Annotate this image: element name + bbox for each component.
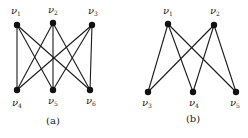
vertex-label-v5: ν5 — [48, 95, 58, 107]
vertex-label-v1: ν1 — [11, 5, 21, 17]
edge-v3-v5 — [53, 25, 92, 90]
vertex-v1 — [14, 22, 20, 28]
vertex-v1 — [165, 21, 171, 27]
vertex-v3 — [145, 89, 151, 95]
caption-a: (a) — [46, 115, 60, 126]
vertex-label-v3: ν3 — [142, 97, 152, 109]
vertex-label-v1: ν1 — [163, 5, 173, 17]
vertex-label-v2: ν2 — [210, 5, 220, 17]
edge-v1-v4 — [168, 24, 193, 92]
vertex-subscript: 2 — [54, 9, 58, 16]
vertex-v5 — [50, 87, 56, 93]
vertex-subscript: 6 — [92, 100, 96, 107]
edge-v3-v6 — [90, 25, 92, 90]
edge-v1-v5 — [168, 24, 236, 92]
graph-a-k33: ν1ν2ν3ν4ν5ν6(a) — [11, 4, 98, 126]
edge-v2-v5 — [214, 25, 236, 92]
vertex-subscript: 1 — [169, 10, 173, 17]
vertex-subscript: 4 — [18, 102, 22, 109]
bipartite-graphs-figure: ν1ν2ν3ν4ν5ν6(a) ν1ν2ν3ν4ν5(b) — [0, 0, 248, 138]
graph-b-k23: ν1ν2ν3ν4ν5(b) — [142, 5, 240, 124]
vertex-v4 — [190, 89, 196, 95]
vertex-subscript: 1 — [17, 10, 21, 17]
vertex-v4 — [14, 87, 20, 93]
vertex-subscript: 3 — [148, 102, 152, 109]
vertex-label-v3: ν3 — [88, 5, 98, 17]
vertex-v5 — [233, 89, 239, 95]
vertex-label-v4: ν4 — [189, 97, 199, 109]
vertex-subscript: 3 — [94, 10, 98, 17]
vertex-v3 — [89, 22, 95, 28]
vertex-label-v5: ν5 — [230, 97, 240, 109]
vertex-subscript: 5 — [236, 102, 240, 109]
vertex-subscript: 4 — [195, 102, 199, 109]
vertex-label-v6: ν6 — [86, 95, 96, 107]
vertex-label-v2: ν2 — [48, 4, 58, 16]
vertex-v6 — [87, 87, 93, 93]
vertex-subscript: 5 — [54, 100, 58, 107]
vertex-subscript: 2 — [216, 10, 220, 17]
vertex-v2 — [50, 20, 56, 26]
vertex-label-v4: ν4 — [12, 97, 22, 109]
vertex-v2 — [211, 22, 217, 28]
caption-b: (b) — [186, 113, 200, 124]
